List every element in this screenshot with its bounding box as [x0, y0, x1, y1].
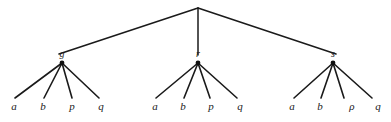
node-label-g: g [60, 48, 65, 59]
leaf-label-r-0: a [152, 100, 158, 112]
leaf-label-s-3: q [375, 100, 381, 112]
leaf-label-s-1: b [317, 100, 323, 112]
edge-root-to-g [59, 8, 198, 54]
leaf-label-s-2: ρ [348, 100, 354, 112]
node-label-r: r [196, 48, 200, 59]
leaf-label-g-3: q [98, 100, 104, 112]
leaf-label-g-0: a [11, 100, 17, 112]
branch-edges-r [156, 63, 237, 98]
leaf-label-r-3: q [237, 100, 243, 112]
tree-diagram-figure: g a b p q r a b p q [0, 0, 391, 122]
edge-g-to-leaf-0 [15, 63, 62, 98]
leaf-label-s-0: a [289, 100, 295, 112]
leaf-label-r-2: p [207, 100, 214, 112]
branch-edges-s [294, 63, 372, 98]
leaf-label-r-1: b [180, 100, 186, 112]
leaf-label-g-1: b [40, 100, 46, 112]
node-dot-r [196, 61, 201, 66]
node-dot-s [331, 61, 336, 66]
node-dot-g [60, 61, 65, 66]
tree-diagram-canvas: g a b p q r a b p q [0, 0, 391, 122]
node-label-s: s [331, 48, 335, 59]
subtree-g: g a b p q [11, 48, 104, 112]
subtree-r: r a b p q [152, 48, 243, 112]
branch-edges-g [15, 63, 99, 98]
subtree-s: s a b ρ q [289, 48, 381, 112]
leaf-label-g-2: p [68, 100, 75, 112]
edge-root-to-s [198, 8, 336, 54]
edge-g-to-leaf-1 [44, 63, 62, 98]
